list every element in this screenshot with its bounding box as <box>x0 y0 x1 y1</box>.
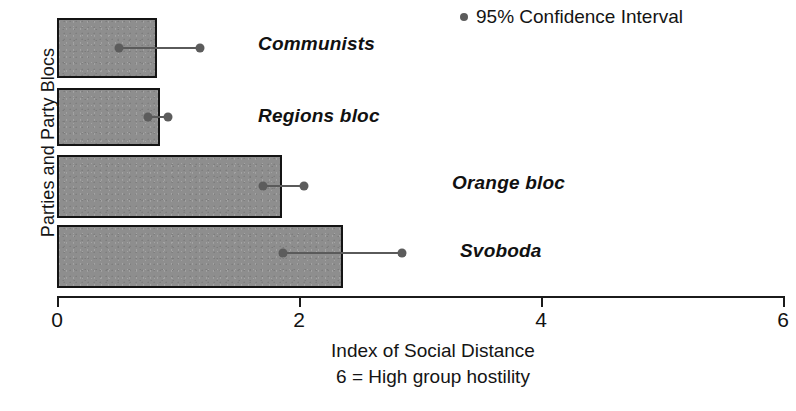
ci-dot-high-regions-bloc <box>164 113 173 122</box>
x-tick-label-0: 0 <box>51 308 63 332</box>
legend-dot-icon <box>460 13 468 21</box>
x-axis-title-line1: Index of Social Distance <box>0 340 796 362</box>
ci-line-svoboda <box>283 252 402 254</box>
x-tick-4 <box>541 296 543 307</box>
ci-dot-high-svoboda <box>398 249 407 258</box>
x-tick-6 <box>783 296 785 307</box>
ci-dot-low-regions-bloc <box>144 113 153 122</box>
x-tick-2 <box>299 296 301 307</box>
x-tick-label-6: 6 <box>777 308 789 332</box>
x-tick-label-4: 4 <box>535 308 547 332</box>
bar-orange-bloc <box>57 155 282 218</box>
bar-texture <box>59 157 280 216</box>
bar-texture <box>59 227 341 286</box>
ci-dot-high-orange-bloc <box>300 182 309 191</box>
bar-label-svoboda: Svoboda <box>460 240 542 262</box>
bar-label-orange-bloc: Orange bloc <box>452 172 565 194</box>
bar-svoboda <box>57 225 343 288</box>
ci-line-orange-bloc <box>263 185 304 187</box>
ci-line-communists <box>119 47 200 49</box>
chart-figure: Parties and Party Blocs Communists Regio… <box>0 0 796 411</box>
ci-dot-low-communists <box>115 44 124 53</box>
x-axis-title: Index of Social Distance 6 = High group … <box>0 340 796 388</box>
x-axis-line <box>57 296 784 298</box>
x-tick-0 <box>57 296 59 307</box>
legend: 95% Confidence Interval <box>460 6 683 28</box>
x-axis-title-line2: 6 = High group hostility <box>0 366 796 388</box>
bar-label-regions-bloc: Regions bloc <box>258 105 380 127</box>
ci-dot-low-svoboda <box>279 249 288 258</box>
legend-label: 95% Confidence Interval <box>476 6 683 28</box>
bar-label-communists: Communists <box>258 33 375 55</box>
ci-dot-low-orange-bloc <box>259 182 268 191</box>
x-tick-label-2: 2 <box>293 308 305 332</box>
ci-dot-high-communists <box>196 44 205 53</box>
